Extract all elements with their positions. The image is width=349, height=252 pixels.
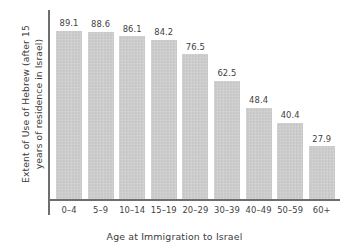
x-tick-label: 5–9 (88, 205, 114, 215)
bar-value-label: 88.6 (91, 19, 110, 29)
bar-value-label: 27.9 (312, 134, 331, 144)
bar-series: 89.1 88.6 86.1 84.2 76.5 62.5 (56, 10, 340, 199)
x-tick-label: 20–29 (182, 205, 208, 215)
plot-area: 89.1 88.6 86.1 84.2 76.5 62.5 (48, 10, 340, 200)
bar-rect (277, 123, 303, 199)
x-axis-tick-labels: 0–4 5–9 10–14 15–19 20–29 30–39 40–49 50… (56, 205, 340, 215)
bar-rect (119, 36, 145, 199)
bar-chart: Extent of Use of Hebrew (after 15 years … (0, 0, 349, 252)
bar-rect (88, 32, 114, 199)
bar-group-6: 48.4 (246, 10, 272, 199)
bar-value-label: 62.5 (217, 68, 236, 78)
bar-rect (246, 108, 272, 199)
bar-value-label: 84.2 (154, 27, 173, 37)
bar-group-7: 40.4 (277, 10, 303, 199)
y-axis-title-line-2: years of residence in Israel) (32, 39, 45, 169)
bar-group-2: 86.1 (119, 10, 145, 199)
bar-value-label: 48.4 (249, 95, 268, 105)
x-tick-label: 40–49 (246, 205, 272, 215)
bar-group-0: 89.1 (56, 10, 82, 199)
x-tick-label: 30–39 (214, 205, 240, 215)
bar-rect (182, 54, 208, 199)
x-tick-label: 60+ (309, 205, 335, 215)
bar-value-label: 40.4 (281, 110, 300, 120)
x-axis-line (48, 199, 340, 201)
bar-group-3: 84.2 (151, 10, 177, 199)
bar-group-5: 62.5 (214, 10, 240, 199)
bar-rect (309, 146, 335, 199)
bar-rect (214, 81, 240, 199)
bar-value-label: 89.1 (59, 18, 78, 28)
bar-group-8: 27.9 (309, 10, 335, 199)
x-axis-title: Age at Immigration to Israel (0, 231, 349, 242)
bar-group-4: 76.5 (182, 10, 208, 199)
x-tick-label: 50–59 (277, 205, 303, 215)
bar-group-1: 88.6 (88, 10, 114, 199)
x-tick-label: 10–14 (119, 205, 145, 215)
y-axis-title-line-1: Extent of Use of Hebrew (after 15 (19, 25, 32, 183)
bar-value-label: 76.5 (186, 42, 205, 52)
bar-rect (56, 31, 82, 199)
y-axis-line (48, 10, 50, 215)
bar-rect (151, 40, 177, 199)
y-axis-title: Extent of Use of Hebrew (after 15 years … (14, 9, 50, 199)
x-tick-label: 15–19 (151, 205, 177, 215)
x-tick-label: 0–4 (56, 205, 82, 215)
bar-value-label: 86.1 (123, 24, 142, 34)
